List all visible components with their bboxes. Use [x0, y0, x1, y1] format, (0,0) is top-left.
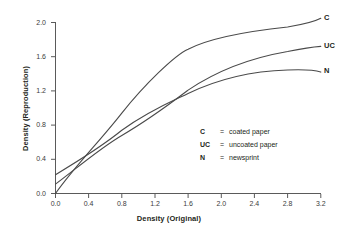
- chart-legend: C = coated paper UC = uncoated paper N =…: [200, 128, 278, 167]
- curve-label-c: C: [324, 13, 329, 22]
- series-line-c: [56, 18, 321, 193]
- y-axis-ticks: [51, 23, 55, 194]
- legend-desc-n: newsprint: [229, 154, 259, 161]
- legend-row-n: N = newsprint: [200, 154, 278, 167]
- x-tick-label: 3.2: [309, 200, 333, 207]
- x-tick-label: 2.0: [209, 200, 233, 207]
- x-tick-label: 1.6: [176, 200, 200, 207]
- legend-equals: =: [220, 128, 229, 135]
- legend-equals: =: [220, 141, 229, 148]
- curve-label-uc: UC: [324, 41, 335, 50]
- legend-key-c: C: [200, 128, 220, 135]
- x-axis-title: Density (Original): [0, 214, 338, 223]
- x-axis-ticks: [56, 194, 321, 198]
- legend-row-uc: UC = uncoated paper: [200, 141, 278, 154]
- x-tick-label: 2.8: [276, 200, 300, 207]
- chart-figure: 0.0 0.4 0.8 1.2 1.6 2.0 0.0 0.4 0.8 1.2 …: [0, 0, 338, 238]
- legend-equals: =: [220, 154, 229, 161]
- y-tick-label: 2.0: [22, 19, 46, 26]
- y-axis-title: Density (Reproduction): [21, 29, 30, 189]
- x-tick-label: 0.0: [44, 200, 68, 207]
- series-line-n: [56, 70, 321, 175]
- legend-key-uc: UC: [200, 141, 220, 148]
- y-tick-label: 0.0: [22, 190, 46, 197]
- x-tick-label: 0.4: [77, 200, 101, 207]
- x-tick-label: 0.8: [110, 200, 134, 207]
- legend-desc-c: coated paper: [229, 128, 270, 135]
- legend-desc-uc: uncoated paper: [229, 141, 278, 148]
- legend-key-n: N: [200, 154, 220, 161]
- legend-row-c: C = coated paper: [200, 128, 278, 141]
- x-tick-label: 1.2: [143, 200, 167, 207]
- series-line-uc: [56, 46, 321, 184]
- x-tick-label: 2.4: [242, 200, 266, 207]
- curve-label-n: N: [324, 66, 329, 75]
